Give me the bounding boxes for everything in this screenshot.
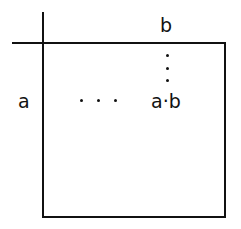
product-cell-label: a·b [151,92,181,111]
table-bottom-border [42,216,226,218]
vertical-ellipsis-dot [166,54,169,57]
horizontal-ellipsis-dot [97,99,100,102]
horizontal-ellipsis-dot [80,99,83,102]
vertical-ellipsis-dot [166,79,169,82]
vertical-ellipsis-dot [166,67,169,70]
table-right-border [224,42,226,218]
horizontal-ellipsis-dot [114,99,117,102]
row-header-label: a [18,92,30,111]
horizontal-axis-line [12,42,226,44]
column-header-label: b [160,16,172,35]
